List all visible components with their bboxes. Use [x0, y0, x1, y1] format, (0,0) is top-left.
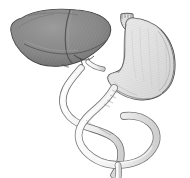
hepatobiliary-diagram — [0, 0, 190, 178]
jejunum — [118, 165, 119, 178]
anatomy-figure — [0, 0, 190, 178]
